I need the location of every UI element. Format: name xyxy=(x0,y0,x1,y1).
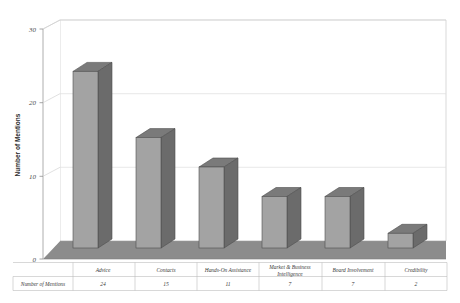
data-table: Advice Contacts Hands-On Assistance Mark… xyxy=(13,263,447,291)
table-header-advice: Advice xyxy=(95,267,111,273)
table-header-credibility: Credibility xyxy=(404,267,428,273)
bar-chart-figure: 30 20 10 0 Number of Mentions xyxy=(0,0,460,303)
table-value-market-and-business-intelligence: 7 xyxy=(289,281,292,287)
table-value-advice: 24 xyxy=(100,281,106,287)
table-row-header: Number of Mentions xyxy=(20,281,65,287)
table-value-hands-on-assistance: 11 xyxy=(225,281,230,287)
table-value-credibility: 2 xyxy=(415,281,418,287)
bar-hands-on-assistance xyxy=(199,158,238,248)
y-axis-ticks xyxy=(40,29,44,259)
y-axis-title: Number of Mentions xyxy=(14,113,21,176)
table-header-contacts: Contacts xyxy=(156,267,175,273)
table-header-market-and-business-line2: Intelligence xyxy=(276,271,303,277)
table-value-board-involvement: 7 xyxy=(352,281,355,287)
bar-market-and-business-intelligence xyxy=(262,188,301,249)
table-value-contacts: 15 xyxy=(163,281,169,287)
bar-contacts xyxy=(136,129,175,248)
y-tick-label-30: 30 xyxy=(28,26,37,34)
plot-left-wall xyxy=(43,20,60,259)
table-header-hands-on-assistance: Hands-On Assistance xyxy=(204,267,252,273)
plot-back-wall xyxy=(60,20,446,241)
table-header-board-involvement: Board Involvement xyxy=(333,267,374,273)
table-header-market-and-business-line1: Market & Business xyxy=(268,264,310,270)
bar-board-involvement xyxy=(325,188,364,249)
bar-advice xyxy=(73,62,112,248)
y-tick-label-10: 10 xyxy=(29,173,37,181)
y-tick-label-20: 20 xyxy=(29,99,37,107)
